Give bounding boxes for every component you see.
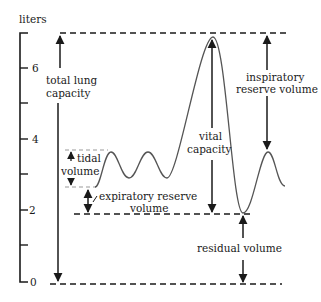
total-lung-capacity-label-1: total lung [46,74,98,86]
expiratory-reserve-label-1: expiratory reserve [99,190,197,202]
total-lung-capacity-label-2: capacity [46,87,91,99]
tidal-volume-marker: tidal volume [60,152,102,185]
residual-volume-marker: residual volume [197,216,282,282]
axis-unit-label: liters [19,13,47,25]
inspiratory-reserve-volume-marker: inspiratory reserve volume [236,36,318,149]
tick-label-2: 2 [29,204,36,216]
expiratory-reserve-volume-marker: expiratory reserve volume [88,190,197,214]
residual-volume-label: residual volume [197,242,282,254]
tick-label-6: 6 [32,62,39,74]
tidal-volume-label-1: tidal [77,152,102,164]
y-axis: liters 6 4 2 0 [19,13,47,288]
vital-capacity-label-2: capacity [187,143,232,155]
lung-volume-diagram: liters 6 4 2 0 total lung capacity tidal… [0,0,321,302]
inspiratory-reserve-label-2: reserve volume [236,83,318,95]
vital-capacity-label-1: vital [198,130,223,142]
tick-label-4: 4 [32,133,39,145]
expiratory-reserve-label-2: volume [129,202,169,214]
breathing-trace [95,37,285,213]
tick-label-0: 0 [30,276,37,288]
tidal-volume-label-2: volume [60,165,100,177]
inspiratory-reserve-label-1: inspiratory [246,71,304,83]
vital-capacity-marker: vital capacity [187,40,232,212]
